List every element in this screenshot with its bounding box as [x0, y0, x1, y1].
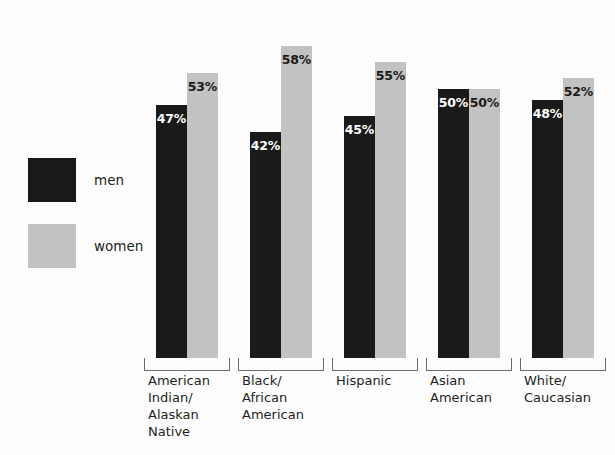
bar-women[interactable]: 52% — [563, 78, 594, 358]
bar-value-label: 42% — [250, 138, 281, 153]
category-label: AmericanIndian/AlaskanNative — [148, 372, 210, 440]
category-label-line: Native — [148, 423, 210, 440]
category-label: Hispanic — [336, 372, 391, 389]
category-label-line: African — [242, 389, 304, 406]
bar-women[interactable]: 50% — [469, 89, 500, 358]
legend-item-women[interactable]: women — [28, 224, 148, 268]
bar-group: 50%50% — [422, 8, 516, 358]
bar-value-label: 45% — [344, 122, 375, 137]
axis-bracket — [332, 358, 418, 371]
category-label-line: Hispanic — [336, 372, 391, 389]
chart-legend: men women — [28, 158, 148, 290]
category-label-line: Black/ — [242, 372, 304, 389]
bar-men[interactable]: 42% — [250, 132, 281, 358]
category-label-line: White/ — [524, 372, 591, 389]
bar-value-label: 47% — [156, 111, 187, 126]
bar-group: 42%58% — [234, 8, 328, 358]
chart-plot-area: 47%53%42%58%45%55%50%50%48%52% — [140, 8, 610, 358]
axis-bracket — [144, 358, 230, 371]
legend-swatch-men — [28, 158, 76, 202]
category-label-line: American — [148, 372, 210, 389]
legend-label-women: women — [94, 238, 143, 254]
bar-group: 48%52% — [516, 8, 610, 358]
category-label-line: Caucasian — [524, 389, 591, 406]
bar-value-label: 50% — [469, 95, 500, 110]
category-label-line: American — [242, 406, 304, 423]
bar-men[interactable]: 47% — [156, 105, 187, 358]
category-label-line: Indian/ — [148, 389, 210, 406]
category-label: AsianAmerican — [430, 372, 492, 406]
category-label-line: Asian — [430, 372, 492, 389]
axis-bracket — [426, 358, 512, 371]
legend-label-men: men — [94, 172, 124, 188]
category-label: Black/AfricanAmerican — [242, 372, 304, 423]
bar-group: 45%55% — [328, 8, 422, 358]
category-label: White/Caucasian — [524, 372, 591, 406]
bar-value-label: 48% — [532, 106, 563, 121]
bar-men[interactable]: 48% — [532, 100, 563, 358]
bar-women[interactable]: 55% — [375, 62, 406, 358]
bar-value-label: 58% — [281, 52, 312, 67]
legend-item-men[interactable]: men — [28, 158, 148, 202]
bar-value-label: 53% — [187, 79, 218, 94]
bar-men[interactable]: 50% — [438, 89, 469, 358]
bar-value-label: 52% — [563, 84, 594, 99]
chart-x-axis — [140, 358, 610, 372]
axis-bracket — [520, 358, 606, 371]
bar-value-label: 50% — [438, 95, 469, 110]
bar-value-label: 55% — [375, 68, 406, 83]
bar-women[interactable]: 53% — [187, 73, 218, 358]
bar-women[interactable]: 58% — [281, 46, 312, 358]
category-label-line: Alaskan — [148, 406, 210, 423]
bar-group: 47%53% — [140, 8, 234, 358]
chart-category-labels: AmericanIndian/AlaskanNativeBlack/Africa… — [140, 372, 615, 452]
category-label-line: American — [430, 389, 492, 406]
bar-men[interactable]: 45% — [344, 116, 375, 358]
chart-title-cropped — [150, 0, 550, 1]
chart-figure: men women 47%53%42%58%45%55%50%50%48%52%… — [0, 0, 615, 455]
legend-swatch-women — [28, 224, 76, 268]
axis-bracket — [238, 358, 324, 371]
